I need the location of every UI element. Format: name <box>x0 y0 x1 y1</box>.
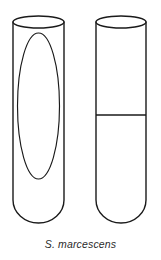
tube-right-rim-icon <box>96 16 146 28</box>
tube-left-rim-icon <box>13 16 64 28</box>
tube-left <box>13 16 64 223</box>
tube-diagram <box>0 0 161 260</box>
tube-right-body <box>96 22 146 223</box>
tube-left-body <box>13 22 64 223</box>
figure-root: S. marcescens <box>0 0 161 260</box>
tube-right <box>96 16 146 223</box>
